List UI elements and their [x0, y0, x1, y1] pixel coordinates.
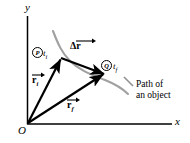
y-axis-label: y: [25, 2, 30, 13]
vector-displacement-diagram: y x O P ti Q tf Δr ri rf: [0, 0, 190, 143]
vector-rf-subscript: f: [71, 105, 73, 112]
vector-delta-r-label: Δr: [70, 41, 81, 51]
vector-ri-subscript: i: [36, 80, 38, 87]
vector-rf-label: rf: [67, 100, 74, 113]
point-q-time-label: tf: [113, 62, 117, 73]
origin-label: O: [18, 125, 26, 136]
vector-ri-label: ri: [32, 75, 38, 88]
diagram-canvas: [0, 0, 190, 143]
path-caption-line1: Path of: [136, 79, 171, 90]
point-marker-q: Q: [101, 60, 112, 71]
vector-delta-r-arrow: [61, 58, 104, 74]
x-axis-label: x: [175, 116, 180, 127]
point-q-time-subscript: f: [116, 66, 118, 73]
ri-vector-overbar-icon: [32, 72, 48, 77]
delta-r-vector-overbar-icon: [76, 38, 98, 43]
point-p-time-subscript: i: [46, 53, 48, 60]
point-marker-p: P: [32, 47, 43, 58]
rf-vector-overbar-icon: [67, 97, 83, 102]
path-caption: Path of an object: [136, 79, 171, 101]
path-caption-line2: an object: [136, 90, 171, 101]
caption-leader-line: [124, 77, 133, 86]
point-p-time-label: ti: [43, 49, 47, 60]
